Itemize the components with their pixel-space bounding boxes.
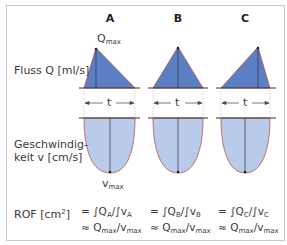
velocity-curve-a (84, 118, 135, 173)
formula-approx-c: ≈ Qmax/vmax (218, 221, 279, 238)
duration-label-a: t (107, 97, 111, 109)
velocity-curve-c (221, 118, 270, 173)
formula-approx-b: ≈ Qmax/vmax (150, 221, 211, 238)
flow-curve-a (84, 48, 135, 88)
flow-curve-c (221, 47, 270, 88)
velocity-axis-label-line2: keit v [cm/s] (14, 152, 82, 164)
duration-label-c: t (243, 97, 247, 109)
flow-axis-label: Fluss Q [ml/s] (14, 65, 89, 77)
vmax-label: vmax (102, 178, 124, 193)
velocity-curve-b (153, 118, 203, 173)
velocity-axis-label-line1: Geschwindig- (14, 139, 88, 151)
qmax-label: Qmax (97, 33, 121, 48)
duration-label-b: t (175, 97, 179, 109)
formula-integral-b: = ∫QB/∫vB (150, 205, 201, 222)
formula-approx-a: ≈ Qmax/vmax (81, 221, 142, 238)
flow-curve-b (153, 47, 203, 88)
rof-label: ROF [cm2] (14, 206, 70, 221)
formula-integral-a: = ∫QA/∫vA (81, 205, 132, 222)
formula-integral-c: = ∫QC/∫vC (218, 205, 269, 222)
